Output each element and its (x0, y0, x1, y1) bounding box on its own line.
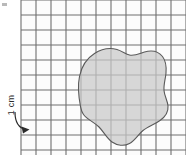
figure-container: 1 cm (0, 0, 186, 155)
grid-figure-svg: 1 cm (0, 0, 186, 155)
scan-artifact-speck (2, 3, 7, 6)
